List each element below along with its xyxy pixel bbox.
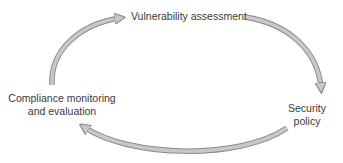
node-label-line-2: and evaluation [6, 105, 118, 118]
node-label-line-2: policy [283, 115, 331, 128]
node-label: Vulnerability assessment [131, 10, 247, 22]
node-vulnerability-assessment: Vulnerability assessment [131, 10, 247, 23]
cycle-arrows [0, 0, 343, 163]
arrow-vulnerability-to-policy [245, 17, 321, 88]
arrow-compliance-to-vulnerability [52, 18, 120, 85]
arrow-policy-to-compliance [84, 127, 287, 151]
node-label-line-1: Compliance monitoring [6, 92, 118, 105]
node-compliance-monitoring: Compliance monitoring and evaluation [6, 92, 118, 117]
node-security-policy: Security policy [283, 102, 331, 127]
node-label-line-1: Security [283, 102, 331, 115]
